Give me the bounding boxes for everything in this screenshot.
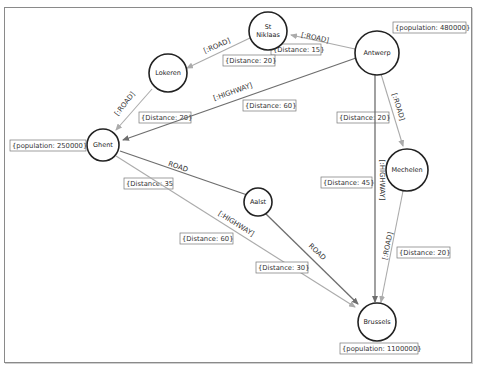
edge-type-label: [:ROAD] [381,231,395,261]
node-label: Lokeren [155,69,181,77]
edge-property: {Distance: 15} [273,46,324,54]
edge-antwerp-brussels[interactable]: [:HIGHWAY] {Distance: 45} [321,75,386,302]
node-aalst[interactable]: Aalst [244,188,272,216]
node-label: Ghent [93,141,113,149]
node-lokeren[interactable]: Lokeren [149,54,187,92]
edge-type-label: [:HIGHWAY] [378,160,386,201]
edge-type-label: [:ROAD] [113,90,137,117]
edge-property: {Distance: 20} [399,249,450,257]
node-label: Niklaas [256,31,280,39]
node-property: {population: 1100000} [342,345,422,353]
node-ghent[interactable]: Ghent {population: 250000} [10,129,119,161]
edge-property: {Distance: 20} [339,114,390,122]
edge-ghent-aalst[interactable]: ROAD {Distance: 35 [120,151,253,197]
edge-property: {Distance: 45} [323,179,374,187]
edge-type-label: [:ROAD] [300,31,330,45]
node-brussels[interactable]: Brussels {population: 1100000} [340,303,422,354]
edge-property: {Distance: 60} [182,235,233,243]
graph-diagram: [:ROAD] {Distance: 15} [:ROAD] {Distance… [0,0,477,368]
edge-property: {Distance: 20} [225,57,276,65]
edge-property: {Distance: 30} [258,264,309,272]
edge-lokeren-ghent[interactable]: [:ROAD] {Distance: 20} [113,89,192,130]
edge-antwerp-mechelen[interactable]: [:ROAD] {Distance: 20} [337,74,406,146]
node-label: Aalst [250,198,267,206]
edge-type-label: ROAD [307,242,327,262]
edge-mechelen-brussels[interactable]: [:ROAD] {Distance: 20} [381,191,450,302]
node-label: Antwerp [363,49,390,57]
node-label: Mechelen [391,166,422,174]
node-label: Brussels [363,318,391,326]
node-label: St [265,23,272,31]
node-property: {population: 480000} [395,24,470,32]
node-antwerp[interactable]: Antwerp {population: 480000} [355,22,470,75]
edge-aalst-brussels[interactable]: ROAD {Distance: 30} [256,214,358,304]
node-property: {population: 250000} [12,142,87,150]
edge-type-label: [:ROAD] [202,37,231,56]
node-mechelen[interactable]: Mechelen [386,149,428,191]
node-st-niklaas[interactable]: St Niklaas [249,12,287,50]
edge-ghent-brussels[interactable]: [:HIGHWAY] {Distance: 60} [116,156,355,307]
edge-type-label: [:ROAD] [390,92,406,122]
edge-property: {Distance: 35 [126,180,173,188]
edge-type-label: ROAD [167,160,189,174]
edge-type-label: [:HIGHWAY] [212,81,253,102]
edge-property: {Distance: 60} [245,102,296,110]
